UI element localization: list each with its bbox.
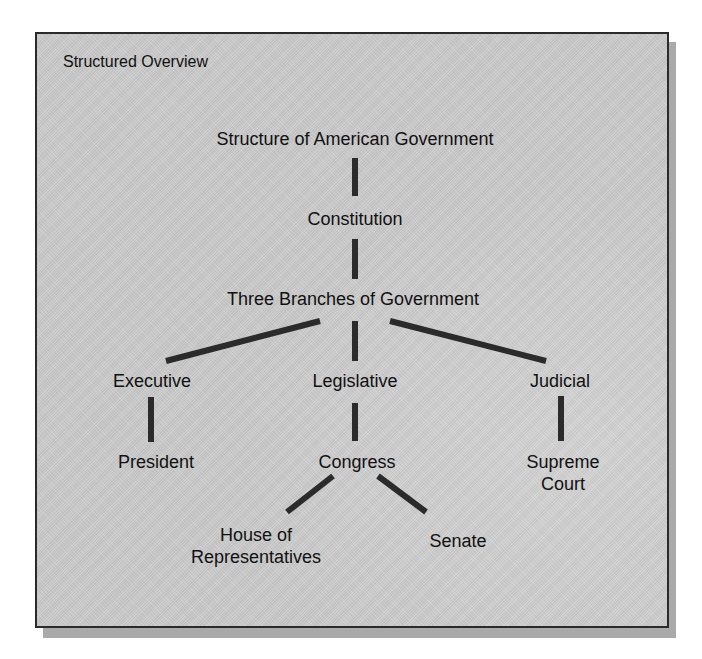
node-root: Structure of American Government bbox=[216, 128, 493, 150]
structured-overview-panel bbox=[35, 32, 669, 628]
panel-title: Structured Overview bbox=[63, 53, 208, 71]
node-president: President bbox=[118, 451, 194, 473]
node-senate: Senate bbox=[429, 530, 486, 552]
node-house-line2: Representatives bbox=[191, 546, 321, 568]
node-legislative: Legislative bbox=[312, 370, 397, 392]
node-supreme-court-line1: Supreme bbox=[526, 451, 599, 473]
node-supreme-court-line2: Court bbox=[526, 473, 599, 495]
node-judicial: Judicial bbox=[530, 370, 590, 392]
node-supreme-court: Supreme Court bbox=[526, 451, 599, 495]
node-three-branches: Three Branches of Government bbox=[227, 288, 479, 310]
node-house-line1: House of bbox=[191, 524, 321, 546]
node-house-of-representatives: House of Representatives bbox=[191, 524, 321, 568]
node-congress: Congress bbox=[318, 451, 395, 473]
node-constitution: Constitution bbox=[307, 208, 402, 230]
node-executive: Executive bbox=[113, 370, 191, 392]
